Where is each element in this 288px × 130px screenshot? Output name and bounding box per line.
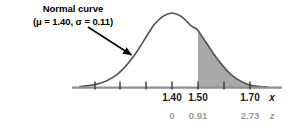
normal-curve-figure: Normal curve (μ = 1.40, σ = 0.11) 1.40 1… xyxy=(0,0,288,130)
x-tick-label-1-70: 1.70 xyxy=(240,92,259,103)
x-tick-label-1-50: 1.50 xyxy=(188,92,207,103)
z-tick-label-0: 0 xyxy=(169,110,174,121)
x-axis-name: x xyxy=(269,92,275,103)
annotation-arrow xyxy=(88,27,132,55)
z-tick-label-2-73: 2.73 xyxy=(241,110,260,121)
z-tick-label-0-91: 0.91 xyxy=(189,110,208,121)
shaded-tail-region xyxy=(198,30,268,87)
z-axis-name: z xyxy=(270,110,275,121)
curve-annotation-line1: Normal curve xyxy=(8,3,138,16)
x-tick-label-1-40: 1.40 xyxy=(162,92,181,103)
curve-annotation: Normal curve (μ = 1.40, σ = 0.11) xyxy=(8,3,138,28)
curve-annotation-line2: (μ = 1.40, σ = 0.11) xyxy=(8,16,138,29)
